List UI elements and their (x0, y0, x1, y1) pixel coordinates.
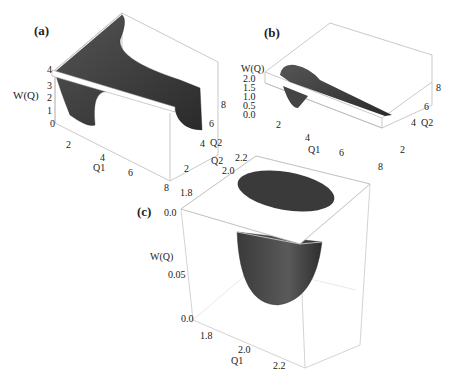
tick: 0.0 (181, 314, 194, 324)
tick: 4 (305, 133, 310, 143)
tick: 6 (424, 102, 429, 112)
tick: 6 (209, 119, 214, 129)
tick: 0 (50, 119, 55, 129)
tick: 4 (411, 118, 416, 128)
tick: 2.0 (238, 345, 251, 355)
panel-b-xlabel: Q1 (308, 145, 320, 155)
tick: 8 (221, 100, 226, 110)
panel-c-xlabel: Q1 (231, 356, 243, 366)
panel-a-xlabel: Q1 (93, 163, 105, 173)
panel-b-label: (b) (264, 26, 280, 39)
tick: 2 (47, 93, 52, 103)
tick: 1 (47, 106, 52, 116)
tick: 6 (128, 168, 133, 178)
tick: 4 (47, 65, 52, 75)
tick: 2 (400, 145, 405, 155)
tick: 8 (436, 83, 441, 93)
figure-graphics (0, 0, 451, 381)
tick: 8 (378, 162, 383, 172)
panel-a-zlabel: W(Q) (13, 90, 39, 101)
panel-a-label: (a) (34, 24, 49, 37)
panel-a-ylabel: Q2 (210, 138, 222, 148)
panel-b-surface-bottom (283, 86, 308, 108)
panel-b-ylabel: Q2 (421, 118, 433, 128)
tick: 2 (66, 140, 71, 150)
tick: 1.8 (200, 331, 213, 341)
tick: 2 (276, 120, 281, 130)
tick: 0.0 (164, 208, 177, 218)
panel-c-ylabel: Q2 (211, 156, 223, 166)
tick: 4 (200, 139, 205, 149)
tick: 1.8 (180, 188, 193, 198)
tick: 2.2 (273, 361, 286, 371)
tick: 2.0 (222, 166, 235, 176)
panel-b-surface-top (280, 65, 392, 116)
tick: 8 (164, 183, 169, 193)
tick: 0.0 (243, 110, 256, 120)
panel-c-zlabel: W(Q) (150, 252, 173, 262)
tick: 6 (339, 148, 344, 158)
tick: 3 (47, 81, 52, 91)
tick: 0.05 (168, 270, 186, 280)
panel-a-surface (55, 15, 202, 130)
tick: 2.2 (235, 153, 248, 163)
panel-c-label: (c) (137, 205, 151, 218)
tick: 2 (184, 164, 189, 174)
figure: (a) W(Q) 4 3 2 1 0 2 4 6 8 Q1 2 4 6 8 Q2… (0, 0, 451, 381)
